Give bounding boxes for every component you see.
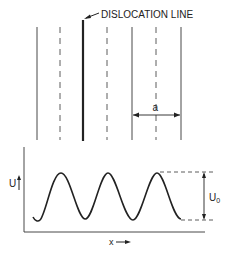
amplitude-label-subscript: 0 xyxy=(216,197,220,204)
amplitude-label: U0 xyxy=(209,192,220,204)
x-axis-label: x xyxy=(109,237,114,247)
y-axis-label: U xyxy=(9,178,16,189)
amplitude-arrowhead-down-icon xyxy=(202,214,206,220)
dislocation-label: DISLOCATION LINE xyxy=(101,9,193,20)
amplitude-arrowhead-up-icon xyxy=(202,172,206,178)
y-axis-label-group: U xyxy=(9,175,21,190)
spacing-dimension: a xyxy=(133,102,180,118)
leader-arrowhead-icon xyxy=(84,15,91,20)
spacing-label: a xyxy=(153,102,159,113)
x-axis-label-group: x xyxy=(109,237,131,247)
dislocation-callout: DISLOCATION LINE xyxy=(84,9,193,20)
amplitude-label-main: U xyxy=(209,192,216,203)
dislocation-potential-diagram: DISLOCATION LINE a U U0 x xyxy=(0,0,228,262)
arrowhead-right-icon xyxy=(174,113,180,118)
lattice-planes xyxy=(37,20,181,141)
arrowhead-left-icon xyxy=(133,113,139,118)
up-arrowhead-icon xyxy=(17,175,21,180)
potential-curve xyxy=(33,173,181,221)
right-arrowhead-icon xyxy=(125,240,131,244)
